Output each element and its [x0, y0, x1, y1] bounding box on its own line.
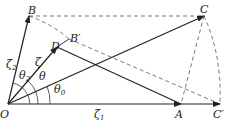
dashed-line-C-A [181, 16, 204, 104]
label-point-C: C [200, 3, 209, 16]
dashed-arc-C-Cprime [204, 16, 220, 104]
label-point-D: D [50, 40, 60, 53]
label-point-B: B [27, 4, 36, 17]
label-zeta2: ζ2 [6, 58, 17, 72]
label-zeta: ζ [35, 56, 42, 69]
label-point-A: A [174, 108, 183, 121]
vector-diagram: O A C′ B C D B′ ζ1 ζ2 ζ θ2 θ θ0 [0, 0, 231, 123]
line-D-A [57, 47, 181, 104]
label-theta0: θ0 [54, 83, 66, 97]
dashed-line-Bprime-Cprime [69, 39, 220, 104]
arc-theta0 [47, 86, 50, 104]
label-point-Cprime: C′ [213, 108, 224, 121]
label-point-O: O [0, 108, 9, 121]
label-point-Bprime: B′ [69, 32, 81, 45]
label-theta2: θ2 [19, 69, 31, 83]
label-zeta1: ζ1 [94, 108, 104, 122]
label-theta: θ [39, 70, 46, 83]
dashed-arc-B-Bprime [29, 16, 69, 39]
